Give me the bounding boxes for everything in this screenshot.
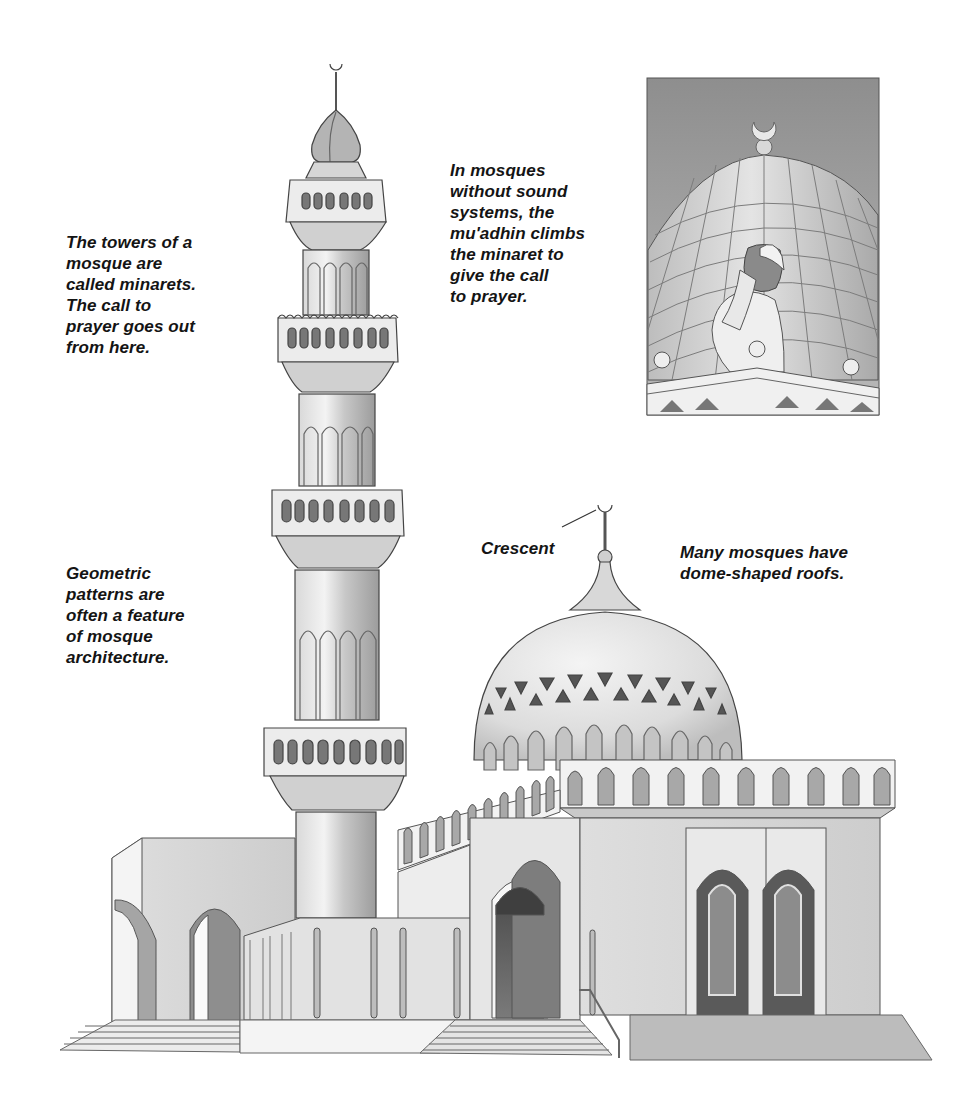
crescent-label: Crescent (481, 538, 555, 559)
muadhin-inset-picture (647, 78, 879, 415)
caption-muadhin: In mosques without sound systems, the mu… (450, 160, 630, 307)
steps-and-platform (60, 1015, 932, 1060)
minaret (264, 64, 406, 918)
caption-geometric-patterns: Geometric patterns are often a feature o… (66, 563, 266, 668)
caption-minarets: The towers of a mosque are called minare… (66, 232, 266, 358)
crescent-leader-line (562, 510, 596, 527)
caption-dome-roofs: Many mosques have dome-shaped roofs. (680, 542, 900, 584)
